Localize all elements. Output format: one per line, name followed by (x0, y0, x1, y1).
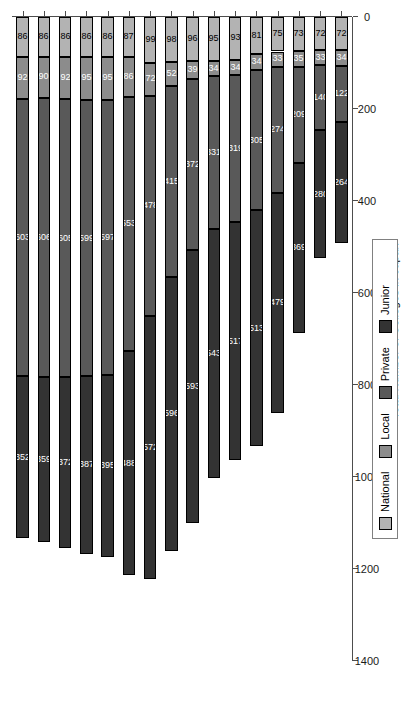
category-axis-tick (44, 11, 45, 16)
bar-value-label: 34 (230, 63, 240, 72)
category-axis-tick (171, 11, 172, 16)
bar-segment-local: 34 (229, 60, 241, 76)
bar-segment-national: 75 (271, 17, 283, 52)
bar-value-label: 415 (165, 177, 177, 186)
bar-value-label: 209 (293, 110, 305, 119)
bar-segment-local: 39 (186, 61, 198, 79)
bar-segment-private: 605 (59, 99, 71, 377)
rotated-figure-canvas: 0200400600800100012001400Total Number of… (0, 0, 404, 707)
bar-value-label: 372 (186, 160, 198, 169)
bar-value-label: 34 (209, 64, 219, 73)
bar-value-label: 39 (188, 66, 198, 75)
bar-value-label: 352 (16, 453, 28, 462)
bar-segment-junior: 372 (59, 377, 71, 548)
bar-segment-junior: 264 (335, 122, 347, 243)
category-axis-tick (320, 11, 321, 16)
bar-value-label: 319 (229, 144, 241, 153)
bar-value-label: 553 (123, 219, 135, 228)
legend-item-national: National (379, 472, 392, 530)
bar-segment-national: 87 (123, 17, 135, 57)
bar-value-label: 596 (165, 409, 177, 418)
bar-segment-national: 99 (144, 17, 156, 63)
category-axis-tick (65, 11, 66, 16)
legend-item-local: Local (379, 413, 392, 457)
bar-segment-private: 372 (186, 79, 198, 250)
bar-segment-local: 34 (335, 50, 347, 66)
bar-value-label: 513 (250, 324, 262, 333)
stacked-bar: 9972478572 (144, 17, 156, 661)
bar-segment-national: 96 (186, 17, 198, 61)
bar-segment-local: 52 (165, 62, 177, 86)
bar-value-label: 72 (145, 75, 155, 84)
bar-value-label: 599 (80, 234, 92, 243)
bar-segment-private: 478 (144, 96, 156, 316)
bar-value-label: 479 (271, 298, 283, 307)
bar-segment-local: 92 (16, 57, 28, 99)
bar-segment-junior: 517 (229, 222, 241, 460)
bar-segment-junior: 593 (186, 250, 198, 523)
bar-segment-local: 95 (101, 57, 113, 101)
bar-value-label: 95 (209, 34, 219, 43)
bar-segment-national: 72 (335, 17, 347, 50)
bar-segment-private: 209 (293, 67, 305, 163)
bar-value-label: 86 (18, 32, 28, 41)
bar-value-label: 73 (294, 29, 304, 38)
bar-segment-private: 553 (123, 97, 135, 351)
stacked-bar: 9639372593 (186, 17, 198, 661)
bar-value-label: 86 (39, 32, 49, 41)
bar-segment-junior: 395 (101, 375, 113, 557)
bar-segment-national: 98 (165, 17, 177, 62)
bar-segment-private: 274 (271, 67, 283, 193)
bar-value-label: 81 (251, 31, 261, 40)
stacked-bar: 8692603352 (16, 17, 28, 661)
stacked-bar: 7234122264 (335, 17, 347, 661)
bar-value-label: 488 (123, 459, 135, 468)
bar-segment-private: 597 (101, 100, 113, 375)
bar-value-label: 86 (81, 32, 91, 41)
bar-value-label: 92 (18, 73, 28, 82)
bar-segment-private: 415 (165, 86, 177, 277)
bar-segment-junior: 596 (165, 277, 177, 551)
legend-swatch-local (379, 445, 392, 458)
bar-value-label: 359 (38, 455, 50, 464)
bar-value-label: 92 (60, 73, 70, 82)
bar-value-label: 593 (186, 382, 198, 391)
bar-segment-national: 81 (250, 17, 262, 54)
bar-segment-private: 599 (80, 100, 92, 376)
category-axis-tick (150, 11, 151, 16)
bar-value-label: 387 (80, 460, 92, 469)
stacked-bar: 8134305513 (250, 17, 262, 661)
legend-item-private: Private (379, 347, 392, 399)
bar-segment-private: 305 (250, 70, 262, 210)
bar-segment-local: 72 (144, 63, 156, 96)
value-axis-tick-label: 200 (342, 103, 392, 115)
chart-legend: NationalLocalPrivateJunior (372, 239, 398, 539)
bar-segment-national: 86 (16, 17, 28, 57)
bar-value-label: 603 (16, 233, 28, 242)
legend-label: National (379, 472, 391, 512)
bar-value-label: 75 (273, 30, 283, 39)
bar-segment-local: 35 (293, 51, 305, 67)
bar-value-label: 372 (59, 458, 71, 467)
stacked-bar: 8690606359 (38, 17, 50, 661)
bar-segment-local: 95 (80, 57, 92, 101)
bar-value-label: 597 (101, 233, 113, 242)
category-axis-tick (193, 11, 194, 16)
bar-segment-national: 86 (80, 17, 92, 57)
value-axis-tick-label: 0 (342, 11, 392, 23)
bar-value-label: 122 (335, 89, 347, 98)
bar-value-label: 264 (335, 178, 347, 187)
bar-value-label: 517 (229, 337, 241, 346)
bar-segment-private: 603 (16, 99, 28, 376)
bar-value-label: 86 (60, 32, 70, 41)
bar-segment-private: 319 (229, 75, 241, 222)
category-axis-tick (214, 11, 215, 16)
bar-segment-local: 90 (38, 57, 50, 98)
stacked-bar: 8786553488 (123, 17, 135, 661)
bar-value-label: 605 (59, 234, 71, 243)
bar-value-label: 34 (336, 53, 346, 62)
bar-value-label: 35 (294, 54, 304, 63)
bar-segment-local: 33 (271, 52, 283, 67)
bar-segment-junior: 359 (38, 377, 50, 542)
bar-value-label: 274 (271, 125, 283, 134)
